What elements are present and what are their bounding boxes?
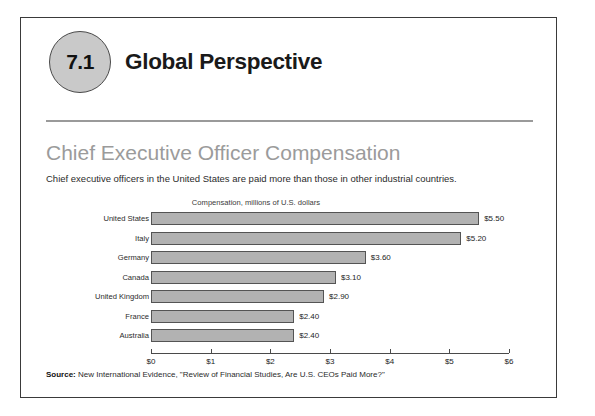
page-frame: 7.1 Global Perspective Chief Executive O… [20, 17, 557, 398]
chart-bar [151, 310, 294, 323]
bar-value-label: $2.40 [299, 329, 319, 342]
x-axis-tick [390, 349, 391, 353]
header-divider [46, 120, 533, 122]
bar-category-label: Germany [29, 251, 149, 264]
bar-value-label: $3.10 [341, 271, 361, 284]
bar-category-label: United States [29, 212, 149, 225]
bar-value-label: $2.40 [299, 310, 319, 323]
x-axis-line [151, 353, 509, 354]
x-axis-tick [449, 349, 450, 353]
bar-category-label: United Kingdom [29, 290, 149, 303]
bar-category-label: Canada [29, 271, 149, 284]
chapter-title: Global Perspective [125, 49, 322, 75]
x-axis-tick-label: $5 [445, 357, 454, 366]
section-title: Chief Executive Officer Compensation [46, 141, 400, 165]
bar-category-label: Italy [29, 232, 149, 245]
chart-bar-row: United States$5.50 [21, 212, 541, 225]
bar-value-label: $2.90 [329, 290, 349, 303]
bar-category-label: France [29, 310, 149, 323]
x-axis-tick [151, 349, 152, 353]
x-axis-tick-label: $3 [326, 357, 335, 366]
bar-value-label: $5.50 [484, 212, 504, 225]
chart-bar-row: Italy$5.20 [21, 232, 541, 245]
chart-bar-row: Germany$3.60 [21, 251, 541, 264]
x-axis-tick [211, 349, 212, 353]
chart-bar [151, 290, 324, 303]
x-axis-tick-label: $1 [206, 357, 215, 366]
chart-bar [151, 271, 336, 284]
section-subtitle: Chief executive officers in the United S… [46, 173, 457, 184]
bar-value-label: $3.60 [371, 251, 391, 264]
x-axis-tick [330, 349, 331, 353]
bar-category-label: Australia [29, 329, 149, 342]
chart-bar [151, 212, 479, 225]
source-note: Source: New International Evidence, "Rev… [46, 370, 385, 379]
source-label: Source: [46, 370, 76, 379]
source-text: New International Evidence, "Review of F… [76, 370, 385, 379]
x-axis-tick-label: $4 [385, 357, 394, 366]
bar-value-label: $5.20 [466, 232, 486, 245]
chart-title: Compensation, millions of U.S. dollars [21, 198, 491, 207]
chapter-header: 7.1 Global Perspective [21, 18, 556, 104]
bar-chart: Compensation, millions of U.S. dollars U… [21, 198, 556, 358]
chart-bar-row: France$2.40 [21, 310, 541, 323]
chart-bar-row: United Kingdom$2.90 [21, 290, 541, 303]
chart-bar [151, 232, 461, 245]
x-axis-tick-label: $6 [505, 357, 514, 366]
x-axis-tick [509, 349, 510, 353]
x-axis-tick-label: $2 [266, 357, 275, 366]
chart-bar-row: Australia$2.40 [21, 329, 541, 342]
x-axis-tick [270, 349, 271, 353]
x-axis-tick-label: $0 [147, 357, 156, 366]
chart-bar-row: Canada$3.10 [21, 271, 541, 284]
chapter-badge: 7.1 [49, 31, 111, 93]
chapter-number: 7.1 [50, 32, 110, 92]
chart-bar [151, 329, 294, 342]
chart-bar [151, 251, 366, 264]
